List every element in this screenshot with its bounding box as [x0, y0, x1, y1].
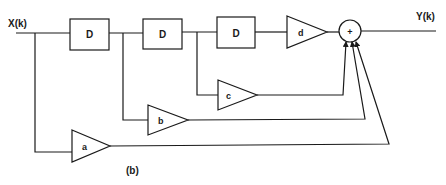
tap-b-line	[123, 33, 148, 120]
c-to-summer-line	[257, 42, 346, 95]
gain-b-triangle	[148, 105, 188, 135]
gain-d-label: d	[298, 28, 304, 38]
output-label: Y(k)	[416, 11, 435, 22]
delay-label-2: D	[159, 29, 166, 40]
input-label: X(k)	[8, 18, 27, 29]
gain-a-label: a	[82, 142, 88, 152]
gain-c-triangle	[218, 80, 257, 110]
fir-filter-diagram: X(k) Y(k) D D D a b c d + (b)	[0, 0, 446, 185]
tap-a-line	[35, 33, 72, 152]
tap-c-line	[197, 32, 218, 95]
b-to-summer-line	[188, 42, 365, 120]
delay-label-3: D	[232, 28, 239, 39]
figure-caption: (b)	[126, 165, 139, 176]
summer-plus-label: +	[347, 27, 352, 37]
gain-c-label: c	[226, 91, 231, 101]
gain-a-triangle	[72, 130, 110, 162]
gain-d-triangle	[287, 16, 327, 48]
gain-b-label: b	[158, 116, 164, 126]
a-to-summer-line	[110, 42, 389, 146]
delay-label-1: D	[86, 29, 93, 40]
